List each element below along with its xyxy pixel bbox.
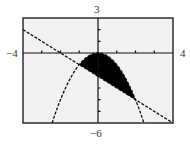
- graph-plot: [0, 0, 190, 148]
